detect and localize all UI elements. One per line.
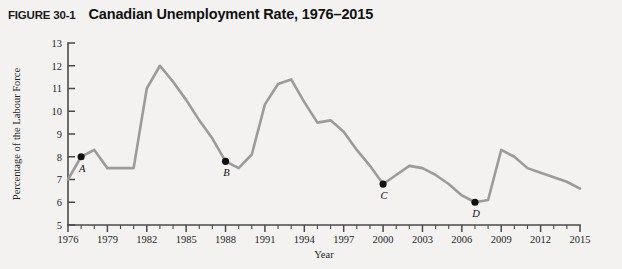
annotation-dot-c <box>379 180 386 187</box>
y-tick-label: 11 <box>52 83 62 94</box>
figure-number: FIGURE 30-1 <box>8 9 75 21</box>
annotation-label-a: A <box>78 163 86 174</box>
x-axis: 1976197919821985198819911994199720002003… <box>58 225 591 260</box>
x-tick-label: 1991 <box>254 234 275 245</box>
x-axis-minor-ticks <box>68 225 580 232</box>
x-axis-tick-labels: 1976197919821985198819911994199720002003… <box>58 234 591 245</box>
x-tick-label: 2009 <box>491 234 512 245</box>
annotation-points: ABCD <box>78 153 481 219</box>
annotation-label-c: C <box>381 190 389 201</box>
annotation-label-d: D <box>471 208 480 219</box>
unemployment-line-chart: 5678910111213 Percentage of the Labour F… <box>0 30 622 269</box>
chart-plot-area: 5678910111213 Percentage of the Labour F… <box>0 30 622 269</box>
x-tick-label: 1994 <box>294 234 316 245</box>
x-tick-label: 2012 <box>530 234 551 245</box>
y-tick-label: 12 <box>52 61 63 72</box>
x-tick-label: 1979 <box>97 234 118 245</box>
annotation-dot-b <box>222 158 229 165</box>
figure-header: FIGURE 30-1 Canadian Unemployment Rate, … <box>8 6 373 22</box>
y-tick-label: 6 <box>57 197 62 208</box>
annotation-label-b: B <box>223 167 230 178</box>
y-axis-ticks <box>68 43 75 225</box>
y-tick-label: 13 <box>52 38 63 49</box>
unemployment-rate-series <box>68 66 580 203</box>
y-tick-label: 8 <box>57 152 62 163</box>
x-tick-label: 1988 <box>215 234 236 245</box>
annotation-dot-d <box>471 199 478 206</box>
y-tick-label: 5 <box>57 220 62 231</box>
y-axis-tick-labels: 5678910111213 <box>52 38 63 231</box>
x-tick-label: 2006 <box>451 234 472 245</box>
x-tick-label: 2015 <box>570 234 591 245</box>
y-axis: 5678910111213 Percentage of the Labour F… <box>11 38 75 231</box>
y-tick-label: 7 <box>57 174 62 185</box>
figure-container: FIGURE 30-1 Canadian Unemployment Rate, … <box>0 0 622 269</box>
y-axis-title: Percentage of the Labour Force <box>11 67 22 200</box>
x-tick-label: 1997 <box>333 234 354 245</box>
x-tick-label: 2000 <box>373 234 394 245</box>
y-tick-label: 10 <box>52 106 63 117</box>
x-axis-title: Year <box>314 249 334 260</box>
x-tick-label: 1976 <box>58 234 79 245</box>
x-tick-label: 1982 <box>136 234 157 245</box>
x-tick-label: 2003 <box>412 234 433 245</box>
figure-title: Canadian Unemployment Rate, 1976–2015 <box>88 6 373 22</box>
annotation-dot-a <box>78 153 85 160</box>
y-tick-label: 9 <box>57 129 62 140</box>
x-tick-label: 1985 <box>176 234 197 245</box>
